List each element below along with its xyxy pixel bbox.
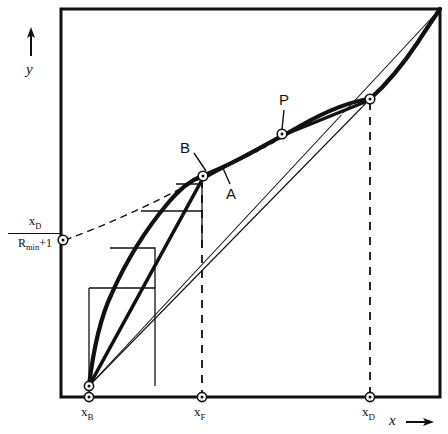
fraction-denominator-base: R	[18, 236, 26, 250]
fraction-bar	[8, 233, 62, 235]
fraction-numerator-subscript: D	[35, 221, 41, 231]
fraction-numerator: xD	[8, 213, 62, 232]
x-tick-label-xB-subscript: B	[88, 412, 94, 422]
marker-point-P	[277, 129, 287, 139]
marker-xD-curve	[365, 94, 375, 104]
y-axis-arrow-icon	[27, 27, 35, 56]
figure-root: y x xD Rmin+1 xB xF xD P B A	[0, 0, 448, 434]
mccabe-thiele-diagram-svg	[0, 0, 448, 434]
x-tick-label-xF: xF	[194, 405, 206, 422]
x-tick-label-xF-subscript: F	[201, 412, 206, 422]
point-label-B: B	[180, 140, 190, 155]
x-tick-label-xD: xD	[362, 405, 375, 422]
marker-xB-curve	[84, 381, 93, 390]
point-label-P: P	[279, 92, 289, 107]
x-tick-label-xB: xB	[81, 405, 94, 422]
marker-xF-axis	[197, 392, 206, 401]
marker-xB-axis	[84, 392, 93, 401]
x-axis-arrow-icon	[406, 418, 434, 426]
marker-xD-axis	[365, 392, 374, 401]
marker-point-B	[198, 171, 208, 181]
point-label-A: A	[226, 186, 236, 201]
y-axis-tick-label-xd-over-rmin-plus-1: xD Rmin+1	[8, 213, 62, 252]
x-axis-label: x	[389, 413, 396, 428]
fraction-denominator: Rmin+1	[8, 235, 62, 252]
x-tick-label-xD-subscript: D	[369, 412, 376, 422]
fraction-denominator-subscript: min	[26, 242, 39, 252]
fraction-denominator-tail: +1	[39, 236, 52, 250]
plot-frame	[61, 9, 440, 397]
y-axis-label: y	[26, 62, 33, 77]
